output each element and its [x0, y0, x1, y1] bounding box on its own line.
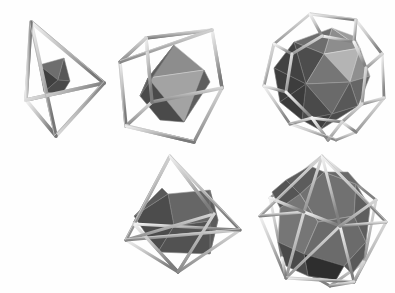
polyhedra-figure [0, 0, 395, 293]
dodeca-in-icosa-svg [252, 150, 394, 292]
octa-in-cube-svg [112, 18, 242, 148]
model-octahedron-in-cube [112, 18, 242, 148]
model-dodecahedron-in-icosahedron [252, 150, 394, 292]
tetra-in-tetra-svg [8, 8, 120, 148]
icosa-in-dodeca-svg [250, 6, 394, 152]
inner-solid-dodecahedron [272, 166, 370, 280]
cube-in-octa-svg [118, 148, 252, 290]
model-icosahedron-in-dodecahedron [250, 6, 394, 152]
model-tetrahedron-in-tetrahedron [8, 8, 120, 148]
model-cube-in-octahedron [118, 148, 252, 290]
